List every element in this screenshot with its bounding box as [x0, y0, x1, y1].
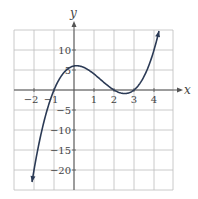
arrowhead-icon	[31, 176, 36, 182]
y-tick-label: 10	[58, 45, 71, 56]
y-tick-label: −5	[56, 105, 71, 116]
y-tick-label: −20	[50, 165, 71, 176]
x-tick-label: −2	[24, 94, 39, 105]
x-tick-label: 4	[151, 94, 157, 105]
x-axis-label: x	[184, 83, 191, 97]
grid	[14, 30, 173, 190]
x-tick-label: 2	[111, 94, 117, 105]
cubic-function-graph: −2−11234105−5−10−15−20 x y	[0, 0, 198, 199]
function-curve	[32, 31, 159, 182]
y-tick-label: −15	[50, 145, 71, 156]
x-tick-label: 1	[91, 94, 97, 105]
axes	[14, 21, 183, 190]
x-tick-label: 3	[131, 94, 137, 105]
y-axis-label: y	[69, 6, 77, 20]
y-tick-label: −10	[50, 125, 71, 136]
y-axis-arrow-icon	[72, 21, 77, 27]
x-axis-arrow-icon	[177, 88, 183, 93]
curve-arrowheads	[31, 31, 161, 182]
